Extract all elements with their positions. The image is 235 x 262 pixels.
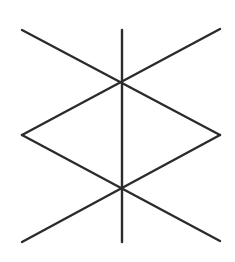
rune-diagram: [0, 0, 235, 262]
rune-strokes: [22, 29, 220, 242]
